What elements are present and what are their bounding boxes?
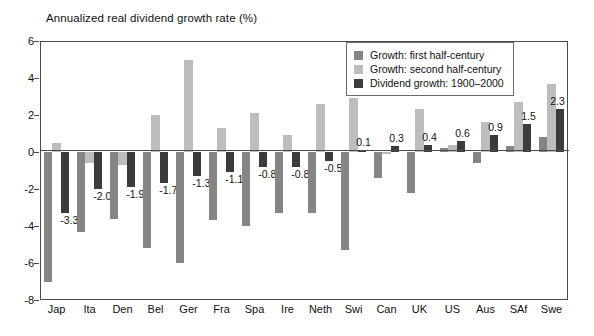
bar[interactable] — [209, 152, 217, 220]
bar[interactable] — [176, 152, 184, 263]
bar[interactable] — [250, 113, 258, 152]
bar[interactable] — [374, 152, 382, 178]
bar-value-label: -3.3 — [60, 215, 78, 226]
y-tick-label: -8 — [8, 295, 34, 306]
y-tick-label: 6 — [8, 36, 34, 47]
y-tick-label: 4 — [8, 73, 34, 84]
bar[interactable] — [547, 84, 555, 152]
bar-group: -1.7 — [143, 41, 169, 300]
bar[interactable] — [382, 152, 390, 154]
legend-item[interactable]: Dividend growth: 1900–2000 — [354, 76, 504, 90]
x-tick-label: US — [445, 303, 460, 315]
x-tick-label: SAf — [510, 303, 528, 315]
y-tick-label: 2 — [8, 110, 34, 121]
bar[interactable] — [61, 152, 69, 213]
bar[interactable] — [523, 124, 531, 152]
bar-group: -1.3 — [176, 41, 202, 300]
y-tick-mark — [34, 263, 39, 264]
bar-value-label: -1.7 — [159, 185, 177, 196]
x-tick-label: Can — [376, 303, 396, 315]
y-tick-mark — [34, 226, 39, 227]
y-tick-mark — [34, 189, 39, 190]
y-tick-label: -4 — [8, 221, 34, 232]
bar-value-label: -1.9 — [126, 189, 144, 200]
bar[interactable] — [242, 152, 250, 226]
bar[interactable] — [316, 104, 324, 152]
y-tick-mark — [34, 115, 39, 116]
x-tick-label: Jap — [48, 303, 66, 315]
bar-group: -1.9 — [110, 41, 136, 300]
y-tick-label: -2 — [8, 184, 34, 195]
x-tick-label: Ita — [83, 303, 95, 315]
bar-value-label: -1.3 — [192, 178, 210, 189]
y-tick-mark — [34, 152, 39, 153]
bar-value-label: -0.8 — [258, 169, 276, 180]
bar-value-label: 0.9 — [488, 122, 503, 133]
bar[interactable] — [325, 152, 333, 161]
bar-group: -0.8 — [275, 41, 301, 300]
bar[interactable] — [44, 152, 52, 282]
bar-value-label: 0.6 — [455, 128, 470, 139]
legend-label: Growth: second half-century — [370, 64, 501, 75]
bar[interactable] — [193, 152, 201, 176]
bar[interactable] — [473, 152, 481, 163]
bar[interactable] — [259, 152, 267, 167]
bar[interactable] — [143, 152, 151, 248]
legend-swatch-icon — [354, 65, 363, 74]
x-tick-label: Aus — [476, 303, 495, 315]
x-tick-label: Fra — [213, 303, 230, 315]
x-tick-label: Spa — [245, 303, 265, 315]
bar[interactable] — [94, 152, 102, 189]
legend-item[interactable]: Growth: first half-century — [354, 48, 504, 62]
bar[interactable] — [160, 152, 168, 183]
x-tick-label: Neth — [309, 303, 332, 315]
legend-item[interactable]: Growth: second half-century — [354, 62, 504, 76]
bar[interactable] — [292, 152, 300, 167]
bar-value-label: 1.5 — [521, 111, 536, 122]
bar[interactable] — [217, 128, 225, 152]
bar[interactable] — [184, 60, 192, 153]
chart-title: Annualized real dividend growth rate (%) — [46, 12, 257, 24]
bar[interactable] — [151, 115, 159, 152]
legend-swatch-icon — [354, 51, 363, 60]
bar-value-label: 0.3 — [389, 133, 404, 144]
bar-group: -3.3 — [44, 41, 70, 300]
bar-value-label: -2.0 — [93, 191, 111, 202]
bar[interactable] — [127, 152, 135, 187]
x-tick-label: Bel — [148, 303, 164, 315]
bar-value-label: 0.1 — [356, 137, 371, 148]
bar[interactable] — [118, 152, 126, 165]
legend-label: Dividend growth: 1900–2000 — [370, 78, 504, 89]
x-tick-label: Ger — [179, 303, 197, 315]
y-tick-mark — [34, 300, 39, 301]
bar[interactable] — [407, 152, 415, 193]
bar-value-label: -0.8 — [291, 169, 309, 180]
legend-swatch-icon — [354, 79, 363, 88]
bar[interactable] — [341, 152, 349, 250]
bar-value-label: 2.3 — [550, 96, 565, 107]
bar-value-label: -0.5 — [324, 163, 342, 174]
bar-group: -2.0 — [77, 41, 103, 300]
y-tick-label: 0 — [8, 147, 34, 158]
bar[interactable] — [556, 109, 564, 152]
x-tick-label: Den — [112, 303, 132, 315]
bar-value-label: -1.1 — [225, 174, 243, 185]
y-tick-mark — [34, 41, 39, 42]
y-tick-mark — [34, 78, 39, 79]
x-tick-label: Ire — [281, 303, 294, 315]
bar-value-label: 0.4 — [422, 132, 437, 143]
bar[interactable] — [308, 152, 316, 213]
bar[interactable] — [85, 152, 93, 163]
x-axis: JapItaDenBelGerFraSpaIreNethSwiCanUKUSAu… — [40, 303, 568, 323]
bar[interactable] — [275, 152, 283, 213]
bar[interactable] — [226, 152, 234, 172]
x-tick-label: Swe — [541, 303, 562, 315]
bar-group: -0.5 — [308, 41, 334, 300]
chart-legend: Growth: first half-centuryGrowth: second… — [346, 42, 514, 96]
bar-group: 2.3 — [539, 41, 565, 300]
y-tick-label: -6 — [8, 258, 34, 269]
bar[interactable] — [110, 152, 118, 219]
bar[interactable] — [77, 152, 85, 232]
zero-baseline — [41, 150, 569, 151]
bar-group: -1.1 — [209, 41, 235, 300]
